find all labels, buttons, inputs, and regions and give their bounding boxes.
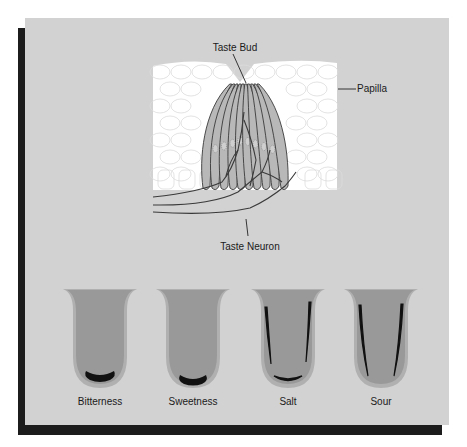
tongue-label: Sweetness xyxy=(169,396,218,407)
cell-nucleus xyxy=(270,145,275,153)
cell-nucleus xyxy=(245,138,250,146)
tongue-label: Sour xyxy=(370,396,392,407)
papilla-label: Papilla xyxy=(357,83,387,94)
taste-diagram: Taste Bud Papilla Taste Neuron Bitternes… xyxy=(0,0,467,447)
cell-nucleus xyxy=(213,145,218,153)
taste-neuron-label: Taste Neuron xyxy=(220,241,279,252)
taste-bud-label: Taste Bud xyxy=(213,42,257,53)
cell-nucleus xyxy=(230,139,235,147)
tongue-label: Bitterness xyxy=(78,396,122,407)
tongue-label: Salt xyxy=(279,396,296,407)
cell-nucleus xyxy=(261,143,266,151)
cell-nucleus xyxy=(222,142,227,150)
cell-nucleus xyxy=(253,140,258,148)
panel-shadow-bottom xyxy=(18,424,442,435)
